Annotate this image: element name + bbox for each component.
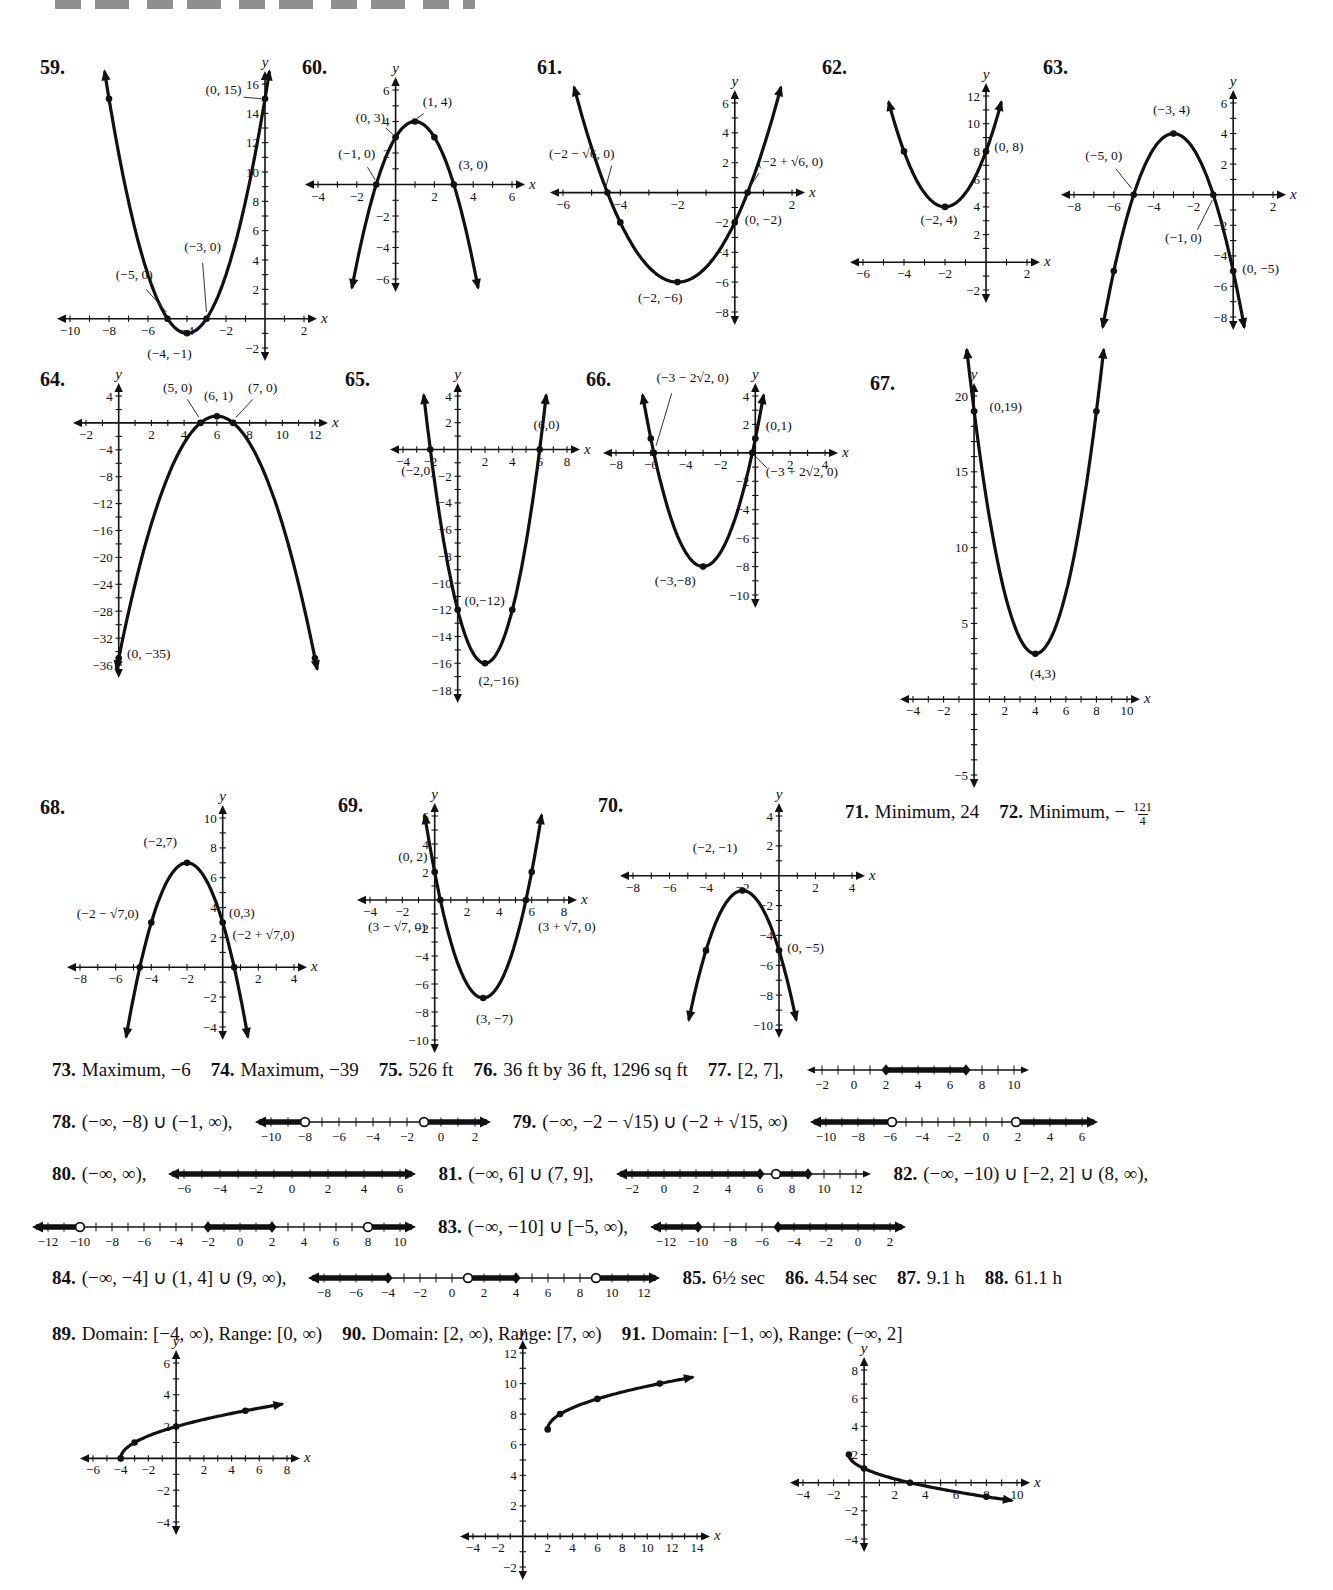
answer-item-91: 91.Domain: [−1, ∞), Range: (−∞, 2] [622,1322,903,1346]
svg-text:(7, 0): (7, 0) [248,380,277,395]
answer-item-83: 83.(−∞, −10] ∪ [−5, ∞), [438,1215,628,1239]
svg-text:−2: −2 [671,197,685,212]
svg-text:2: 2 [201,1462,208,1477]
svg-text:0: 0 [449,1285,456,1300]
svg-text:x: x [1043,253,1051,269]
svg-text:−6: −6 [735,531,749,546]
svg-text:−10: −10 [753,1018,773,1033]
svg-text:−6: −6 [1213,279,1227,294]
svg-text:−8: −8 [1067,199,1081,214]
answer-row-78-79: 78.(−∞, −8) ∪ (−1, ∞),−10−8−6−4−20279.(−… [52,1110,1100,1155]
svg-text:−4: −4 [699,880,713,895]
answer-item-86: 86.4.54 sec [785,1266,877,1290]
svg-text:x: x [583,441,591,457]
svg-text:−8: −8 [73,971,87,986]
svg-text:6: 6 [509,189,516,204]
svg-text:−2: −2 [815,1077,829,1092]
answer-item-90: 90.Domain: [2, ∞), Range: [7, ∞) [342,1322,601,1346]
svg-text:y: y [452,366,461,382]
svg-text:2: 2 [301,323,308,338]
svg-text:x: x [841,444,849,460]
svg-text:8: 8 [510,1407,517,1422]
answer-item-75: 75.526 ft [379,1058,454,1082]
svg-text:2: 2 [148,427,155,442]
svg-text:10: 10 [955,540,968,555]
svg-text:10: 10 [1121,703,1134,718]
answer-text: 6½ sec [712,1266,765,1290]
svg-text:−10: −10 [431,576,451,591]
svg-text:0: 0 [982,1129,989,1144]
graph-64-svg: xy−224681012−36−32−28−24−20−16−12−8−44(5… [68,378,333,683]
svg-text:4: 4 [291,971,298,986]
svg-text:4: 4 [849,880,856,895]
svg-text:−18: −18 [431,683,451,698]
answer-item-78: 78.(−∞, −8) ∪ (−1, ∞), [52,1110,233,1134]
numberline-nl79: −10−8−6−4−20246 [808,1109,1100,1155]
svg-text:6: 6 [1063,703,1070,718]
svg-text:2: 2 [431,189,438,204]
answer-number: 81. [438,1162,462,1186]
svg-text:14: 14 [691,1540,705,1555]
svg-text:−12: −12 [38,1234,58,1249]
svg-text:−8: −8 [723,1234,737,1249]
answer-text: (−∞, ∞), [82,1162,147,1186]
answer-text: 36 ft by 36 ft, 1296 sq ft [503,1058,688,1082]
answer-item-81: 81.(−∞, 6] ∪ (7, 9], [438,1162,593,1186]
svg-text:−8: −8 [298,1129,312,1144]
svg-text:−6: −6 [86,1462,100,1477]
svg-text:−6: −6 [856,266,870,281]
answer-number: 86. [785,1266,809,1290]
svg-text:−8: −8 [759,988,773,1003]
svg-text:4: 4 [509,454,516,469]
graph-answer-91: xy−4−2246810−4−22468 [785,1352,1035,1557]
answer-item-84: 84.(−∞, −4] ∪ (1, 4] ∪ (9, ∞), [52,1266,286,1290]
svg-text:10: 10 [504,1376,517,1391]
svg-text:−4: −4 [415,949,429,964]
graph-g91-svg: xy−4−2246810−4−22468 [785,1352,1035,1557]
answer-text: Maximum, −39 [240,1058,358,1082]
answer-item-82: 82.(−∞, −10) ∪ [−2, 2] ∪ (8, ∞), [894,1162,1149,1186]
svg-text:(0, 3): (0, 3) [356,110,385,125]
svg-text:12: 12 [849,1181,862,1196]
svg-text:6: 6 [594,1540,601,1555]
svg-text:−6: −6 [350,1285,364,1300]
svg-text:(−3, 4): (−3, 4) [1153,102,1190,117]
svg-text:10: 10 [1007,1077,1020,1092]
svg-text:−10: −10 [408,1033,428,1048]
answer-text: 526 ft [409,1058,454,1082]
svg-text:6: 6 [528,904,535,919]
svg-text:8: 8 [577,1285,584,1300]
answer-number: 85. [682,1266,706,1290]
svg-text:(3, −7): (3, −7) [476,1011,513,1026]
svg-text:(−1, 0): (−1, 0) [338,146,375,161]
answer-number: 83. [438,1215,462,1239]
answer-text: (−∞, −8) ∪ (−1, ∞), [82,1110,233,1134]
svg-text:2: 2 [789,197,796,212]
svg-text:4: 4 [513,1285,520,1300]
svg-text:8: 8 [564,454,571,469]
answer-item-72: 72.Minimum, −1214 [999,800,1152,828]
svg-text:−6: −6 [715,275,729,290]
answer-text: [2, 7], [738,1058,784,1082]
svg-text:10: 10 [276,427,289,442]
answer-number: 71. [845,800,869,824]
graph-66-svg: xy−8−6−4−224−10−8−6−4−224(−3 − 2√2, 0)(0… [598,378,843,613]
svg-text:2: 2 [482,454,489,469]
exercise-number-64: 64. [40,368,65,391]
svg-text:−6: −6 [137,1234,151,1249]
answer-text: Domain: [−1, ∞), Range: (−∞, 2] [651,1322,902,1346]
svg-text:−4: −4 [787,1234,801,1249]
svg-text:x: x [528,176,536,192]
svg-text:(6, 1): (6, 1) [204,388,233,403]
svg-text:−8: −8 [415,1005,429,1020]
answer-text: (−∞, −10] ∪ [−5, ∞), [468,1215,628,1239]
numberline-nl77: −20246810 [804,1057,1032,1103]
svg-text:4: 4 [228,1462,235,1477]
graph-62-svg: xy−6−4−22−224681012(0, 8)(−2, 4) [845,78,1045,308]
svg-text:2: 2 [422,865,429,880]
svg-text:−2: −2 [376,209,390,224]
answer-number: 80. [52,1162,76,1186]
svg-text:−6: −6 [883,1129,897,1144]
svg-text:y: y [260,54,269,70]
answer-text: Domain: [2, ∞), Range: [7, ∞) [372,1322,602,1346]
